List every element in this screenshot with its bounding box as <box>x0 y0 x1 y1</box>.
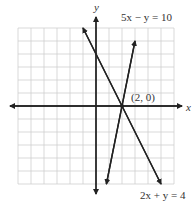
y-axis-label: y <box>93 1 99 13</box>
x-axis-label: x <box>185 101 191 113</box>
axes <box>10 17 182 194</box>
intersection-point <box>120 104 124 108</box>
line1-label: 5x − y = 10 <box>121 11 172 23</box>
intersection-label: (2, 0) <box>131 91 155 104</box>
coordinate-plane: y x 5x − y = 10 2x + y = 4 (2, 0) <box>0 0 194 204</box>
line2-label: 2x + y = 4 <box>140 189 186 201</box>
